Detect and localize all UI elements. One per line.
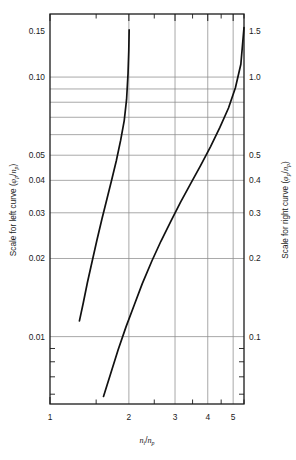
y-left-tick-label: 0.03: [29, 208, 46, 218]
y-right-tick-label: 1.0: [249, 72, 261, 82]
chart-background: [0, 0, 296, 460]
x-tick-label: 1: [48, 412, 53, 422]
y-right-tick-label: 0.2: [249, 253, 261, 263]
y-left-tick-label: 0.01: [29, 332, 46, 342]
x-tick-label: 3: [173, 412, 178, 422]
right-title-close: ): [281, 161, 290, 164]
y-left-tick-label: 0.15: [29, 26, 46, 36]
x-tick-label: 5: [231, 412, 236, 422]
y-right-tick-label: 0.5: [249, 150, 261, 160]
x-tick-label: 2: [127, 412, 132, 422]
y-right-tick-label: 1.5: [249, 26, 261, 36]
y-right-tick-label: 0.1: [249, 332, 261, 342]
x-title-sub-p: p: [151, 440, 155, 446]
y-right-tick-label: 0.4: [249, 175, 261, 185]
x-tick-label: 4: [205, 412, 210, 422]
figure-container: 0.010.020.030.040.050.100.150.10.20.30.4…: [0, 0, 296, 460]
y-left-tick-label: 0.04: [29, 175, 46, 185]
y-left-tick-label: 0.02: [29, 253, 46, 263]
y-right-tick-label: 0.3: [249, 208, 261, 218]
chart-svg: 0.010.020.030.040.050.100.150.10.20.30.4…: [0, 0, 296, 460]
y-left-tick-label: 0.05: [29, 150, 46, 160]
left-title-text: Scale for left curve (: [9, 183, 18, 256]
left-title-close: ): [9, 164, 18, 167]
y-left-tick-label: 0.10: [29, 72, 46, 82]
right-title-text: Scale for right curve (: [281, 181, 290, 259]
